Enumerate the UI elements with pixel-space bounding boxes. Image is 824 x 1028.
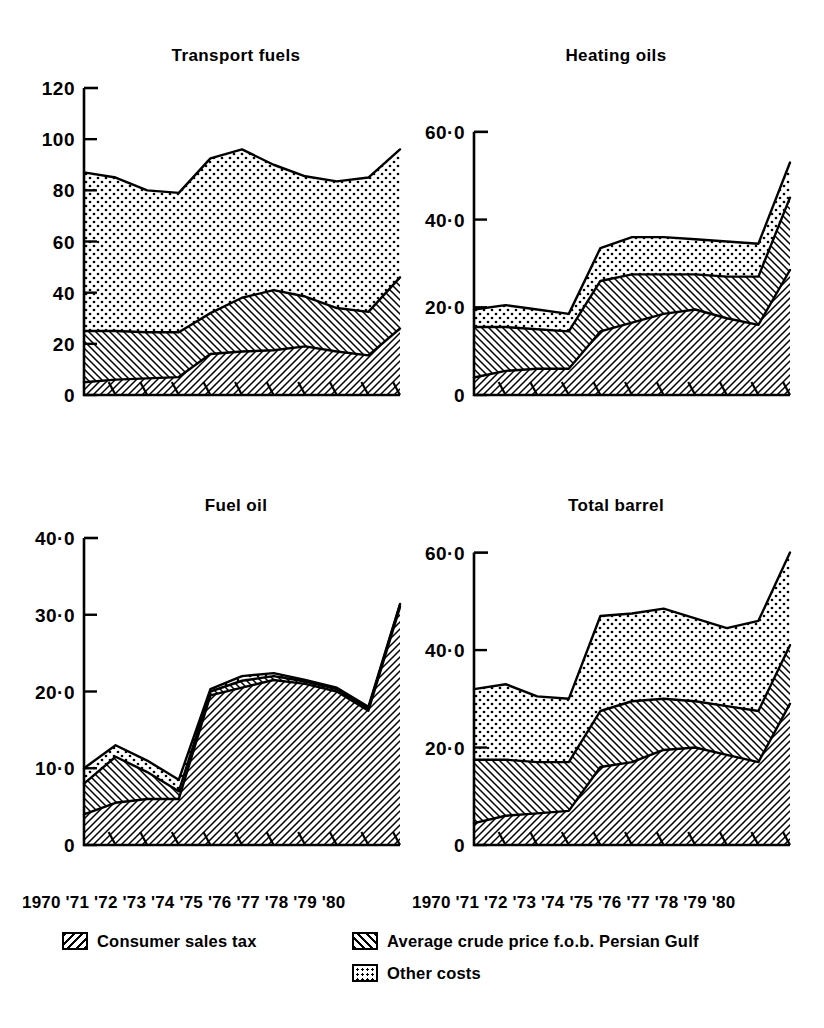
legend-item-consumer-sales-tax: Consumer sales tax	[62, 932, 257, 950]
y-tick-label: 40·0	[35, 528, 75, 549]
panel-title-heating-oils: Heating oils	[390, 46, 802, 66]
y-tick-label: 60·0	[425, 543, 465, 564]
y-tick-label: 20·0	[425, 738, 465, 759]
plot-transport-fuels: 020406080100120	[0, 40, 412, 440]
area-band-crude	[84, 607, 400, 845]
x-axis-labels-row: 1970 '71 '72 '73 '74 '75 '76 '77 '78 '79…	[0, 893, 824, 923]
legend-swatch-dots-icon	[352, 964, 378, 982]
y-tick-label: 60	[53, 232, 75, 253]
y-tick-label: 20·0	[425, 297, 465, 318]
panel-title-transport-fuels: Transport fuels	[0, 46, 412, 66]
y-tick-label: 0	[64, 835, 75, 856]
x-axis-labels-left: 1970 '71 '72 '73 '74 '75 '76 '77 '78 '79…	[22, 893, 345, 913]
y-tick-label: 30·0	[35, 605, 75, 626]
y-tick-label: 40·0	[425, 640, 465, 661]
legend: Consumer sales tax Average crude price f…	[0, 920, 824, 1015]
y-tick-label: 0	[454, 835, 465, 856]
y-tick-label: 20	[53, 334, 75, 355]
figure-root: Transport fuels 020406080100120 Heating …	[0, 0, 824, 1028]
y-tick-label: 80	[53, 180, 75, 201]
panel-heating-oils: Heating oils 020·040·060·0	[390, 40, 802, 440]
panel-total-barrel: Total barrel 020·040·060·0	[390, 490, 802, 890]
panel-title-total-barrel: Total barrel	[390, 496, 802, 516]
y-tick-label: 120	[42, 78, 75, 99]
y-tick-label: 10·0	[35, 758, 75, 779]
y-tick-label: 100	[42, 129, 75, 150]
y-tick-label: 0	[64, 385, 75, 406]
legend-item-average-crude-price: Average crude price f.o.b. Persian Gulf	[352, 932, 699, 950]
chart-panel-grid: Transport fuels 020406080100120 Heating …	[0, 30, 824, 900]
legend-swatch-fwd-hatch-icon	[352, 932, 378, 950]
x-axis-labels-right: 1970 '71 '72 '73 '74 '75 '76 '77 '78 '79…	[412, 893, 735, 913]
panel-transport-fuels: Transport fuels 020406080100120	[0, 40, 412, 440]
panel-fuel-oil: Fuel oil 010·020·030·040·0	[0, 490, 412, 890]
y-tick-label: 0	[454, 385, 465, 406]
y-tick-label: 20·0	[35, 682, 75, 703]
panel-title-fuel-oil: Fuel oil	[0, 496, 412, 516]
y-tick-label: 40·0	[425, 210, 465, 231]
legend-item-other-costs: Other costs	[352, 964, 481, 982]
legend-label-average-crude-price: Average crude price f.o.b. Persian Gulf	[387, 933, 699, 950]
legend-swatch-back-hatch-icon	[62, 932, 88, 950]
legend-label-consumer-sales-tax: Consumer sales tax	[97, 933, 257, 950]
plot-total-barrel: 020·040·060·0	[390, 490, 802, 890]
legend-label-other-costs: Other costs	[387, 965, 481, 982]
y-tick-label: 40	[53, 283, 75, 304]
y-tick-label: 60·0	[425, 122, 465, 143]
plot-fuel-oil: 010·020·030·040·0	[0, 490, 412, 890]
plot-heating-oils: 020·040·060·0	[390, 40, 802, 440]
